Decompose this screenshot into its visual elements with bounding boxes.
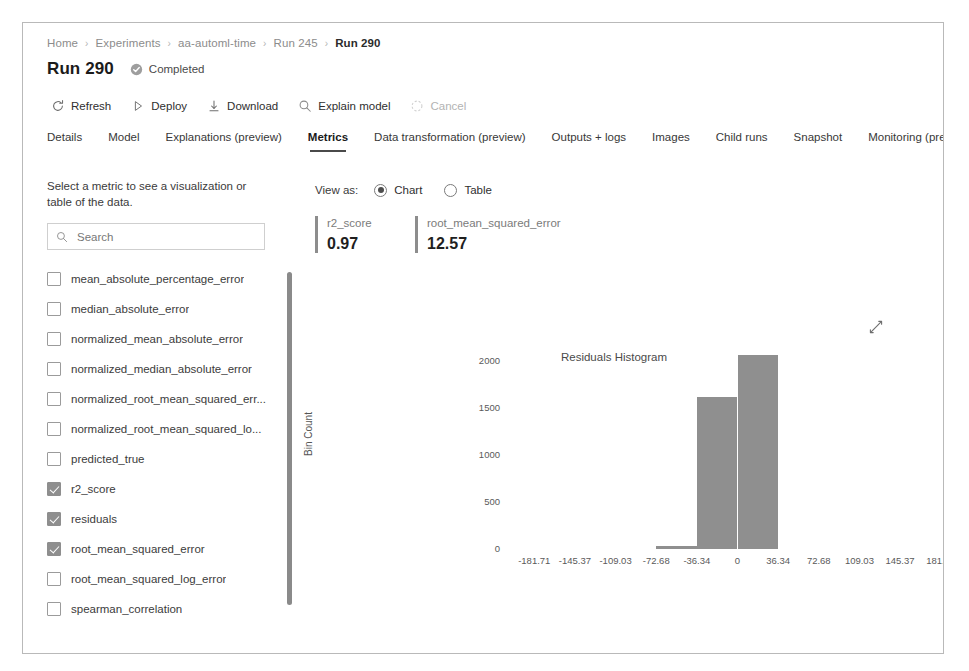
tab-details[interactable]: Details [47,131,82,152]
tab-model[interactable]: Model [108,131,139,152]
metric-label: residuals [71,513,117,525]
breadcrumb-item-run-245[interactable]: Run 245 [274,37,318,49]
metric-checkbox[interactable] [47,362,61,376]
y-axis-tick: 500 [456,496,500,507]
breadcrumb: Home›Experiments›aa-automl-time›Run 245›… [47,37,381,49]
metric-label: predicted_true [71,453,145,465]
metric-checkbox[interactable] [47,392,61,406]
breadcrumb-separator: › [325,38,328,49]
tab-monitoring-preview[interactable]: Monitoring (preview) [868,131,944,152]
tab-child-runs[interactable]: Child runs [716,131,768,152]
breadcrumb-item-home[interactable]: Home [47,37,78,49]
page-title-row: Run 290 Completed [47,59,204,79]
breadcrumb-separator: › [263,38,266,49]
metric-checkbox-list: mean_absolute_percentage_errormedian_abs… [47,264,287,624]
metric-checkbox[interactable] [47,272,61,286]
metric-list-item[interactable]: normalized_root_mean_squared_err... [47,384,287,414]
sidebar-hint: Select a metric to see a visualization o… [47,178,269,210]
cancel-icon [410,99,424,113]
metric-list-item[interactable]: normalized_mean_absolute_error [47,324,287,354]
breadcrumb-item-aa-automl-time[interactable]: aa-automl-time [178,37,256,49]
metric-list-item[interactable]: residuals [47,504,287,534]
run-details-panel: Home›Experiments›aa-automl-time›Run 245›… [22,22,944,654]
search-box[interactable] [47,223,265,250]
metric-checkbox[interactable] [47,602,61,616]
metric-label: root_mean_squared_error [71,543,205,555]
metric-card-value: 0.97 [327,235,387,253]
play-triangle-icon [131,99,145,113]
metric-checkbox[interactable] [47,452,61,466]
metric-checkbox[interactable] [47,422,61,436]
metric-list-item[interactable]: spearman_correlation [47,594,287,624]
metric-list-item[interactable]: root_mean_squared_log_error [47,564,287,594]
toolbar-download-button[interactable]: Download [207,99,278,113]
search-icon [56,231,68,243]
radio-button-selected[interactable] [374,184,387,197]
histogram-bar [738,355,779,549]
metric-label: r2_score [71,483,116,495]
y-axis-tick: 1000 [456,449,500,460]
metric-list-item[interactable]: normalized_median_absolute_error [47,354,287,384]
view-as-chart-radio[interactable]: Chart [374,184,422,197]
toolbar-button-label: Refresh [71,100,111,112]
metric-card-name: root_mean_squared_error [427,216,561,231]
metric-label: median_absolute_error [71,303,189,315]
radio-button[interactable] [444,184,457,197]
metrics-sidebar: Select a metric to see a visualization o… [47,178,297,645]
metric-label: spearman_correlation [71,603,182,615]
metric-checkbox[interactable] [47,302,61,316]
breadcrumb-separator: › [168,38,171,49]
view-as-table-radio[interactable]: Table [444,184,492,197]
breadcrumb-item-run-290: Run 290 [335,37,380,49]
metric-list-item[interactable]: mean_absolute_percentage_error [47,264,287,294]
refresh-icon [51,99,65,113]
toolbar-explain-model-button[interactable]: Explain model [298,99,390,113]
metric-label: normalized_root_mean_squared_err... [71,393,266,405]
search-input[interactable] [75,230,256,244]
metric-list-item[interactable]: r2_score [47,474,287,504]
toolbar-cancel-button: Cancel [410,99,466,113]
toolbar-deploy-button[interactable]: Deploy [131,99,187,113]
metric-list-item[interactable]: predicted_true [47,444,287,474]
tab-images[interactable]: Images [652,131,690,152]
radio-label: Table [464,184,492,196]
metric-list-item[interactable]: root_mean_squared_error [47,534,287,564]
app-screenshot: Home›Experiments›aa-automl-time›Run 245›… [0,0,969,671]
y-axis-label: Bin Count [303,412,314,456]
histogram-bar [697,397,738,549]
metric-label: normalized_mean_absolute_error [71,333,243,345]
magnifier-icon [298,99,312,113]
metric-checkbox[interactable] [47,332,61,346]
residuals-histogram-plot: Bin Count 0500100015002000-181.71-145.37… [291,296,937,647]
tab-outputs-logs[interactable]: Outputs + logs [552,131,626,152]
metric-card: root_mean_squared_error12.57 [415,216,561,253]
tab-data-transformation-preview[interactable]: Data transformation (preview) [374,131,525,152]
metric-checkbox-checked[interactable] [47,482,61,496]
metric-list-item[interactable]: median_absolute_error [47,294,287,324]
toolbar-button-label: Cancel [430,100,466,112]
breadcrumb-item-experiments[interactable]: Experiments [96,37,161,49]
metric-summary-cards: r2_score0.97root_mean_squared_error12.57 [315,216,937,253]
metric-label: mean_absolute_percentage_error [71,273,244,285]
tab-metrics[interactable]: Metrics [308,131,348,152]
metrics-content: View as: ChartTable r2_score0.97root_mea… [291,178,937,647]
toolbar-button-label: Deploy [151,100,187,112]
view-as-control: View as: ChartTable [315,181,937,199]
y-axis-tick: 1500 [456,402,500,413]
radio-label: Chart [394,184,422,196]
y-axis-tick: 2000 [456,355,500,366]
metric-label: root_mean_squared_log_error [71,573,226,585]
tab-explanations-preview[interactable]: Explanations (preview) [165,131,281,152]
download-arrow-icon [207,99,221,113]
histogram-bar [656,546,697,549]
metric-checkbox[interactable] [47,572,61,586]
metric-checkbox-checked[interactable] [47,512,61,526]
toolbar-refresh-button[interactable]: Refresh [51,99,111,113]
tab-snapshot[interactable]: Snapshot [794,131,843,152]
view-as-label: View as: [315,184,358,196]
metric-checkbox-checked[interactable] [47,542,61,556]
metric-list-item[interactable]: normalized_root_mean_squared_lo... [47,414,287,444]
status-badge: Completed [130,63,205,76]
metric-card-value: 12.57 [427,235,561,253]
toolbar-button-label: Explain model [318,100,390,112]
